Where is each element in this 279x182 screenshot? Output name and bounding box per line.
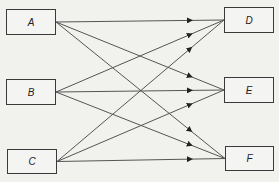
edge-c-f xyxy=(57,159,225,162)
node-label: E xyxy=(246,85,253,96)
edge-a-d xyxy=(56,20,224,22)
arrowhead-icon xyxy=(188,76,190,77)
arrowhead-icon xyxy=(188,144,190,145)
node-b: B xyxy=(6,79,56,105)
node-label: C xyxy=(28,156,35,167)
node-label: B xyxy=(28,87,35,98)
node-label: A xyxy=(28,17,35,28)
node-c: C xyxy=(7,149,57,174)
node-label: F xyxy=(246,153,252,164)
node-e: E xyxy=(224,77,274,103)
node-f: F xyxy=(225,146,274,171)
arrowhead-icon xyxy=(188,129,190,130)
node-d: D xyxy=(224,7,274,33)
arrowhead-icon xyxy=(188,49,190,50)
arrowhead-icon xyxy=(188,105,190,106)
edge-b-d xyxy=(56,20,224,92)
edge-c-e xyxy=(57,90,224,162)
node-a: A xyxy=(6,9,56,35)
arrowhead-icon xyxy=(188,35,190,36)
node-label: D xyxy=(245,15,252,26)
